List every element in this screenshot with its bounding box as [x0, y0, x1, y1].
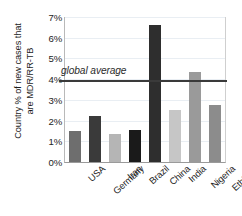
y-axis-tick-label: 2%	[36, 115, 62, 126]
bar	[109, 134, 121, 162]
y-axis-tick-labels: 0%1%2%3%4%5%6%7%	[36, 0, 62, 216]
x-axis-category-label: India	[186, 163, 208, 184]
y-axis-title-line-2: are MDR/RR-TB	[25, 1, 37, 161]
bars-layer	[65, 17, 225, 162]
bar	[69, 131, 81, 162]
bar	[189, 72, 201, 162]
y-axis-title-line-1: Country % of new cases that	[13, 1, 25, 161]
x-axis-category-label: USA	[86, 163, 107, 184]
y-axis-tick-label: 7%	[36, 12, 62, 23]
y-axis-tick-label: 5%	[36, 53, 62, 64]
y-axis-tick-label: 0%	[36, 157, 62, 168]
plot-area: global average	[64, 17, 226, 163]
global-average-label: global average	[61, 65, 126, 76]
y-axis-tick-label: 1%	[36, 136, 62, 147]
bar-chart: Country % of new cases that are MDR/RR-T…	[0, 0, 242, 216]
bar	[89, 116, 101, 162]
bar	[169, 110, 181, 162]
x-axis-category-label: Brazil	[147, 163, 171, 186]
x-axis-category-labels: USAGermanyIranBrazilChinaIndiaNigeriaEth…	[64, 163, 224, 216]
global-average-line	[59, 80, 227, 82]
y-axis-tick-label: 4%	[36, 74, 62, 85]
y-axis-tick-label: 3%	[36, 94, 62, 105]
y-axis-tick-label: 6%	[36, 32, 62, 43]
bar	[209, 105, 221, 162]
bar	[129, 130, 141, 162]
bar	[149, 25, 161, 162]
